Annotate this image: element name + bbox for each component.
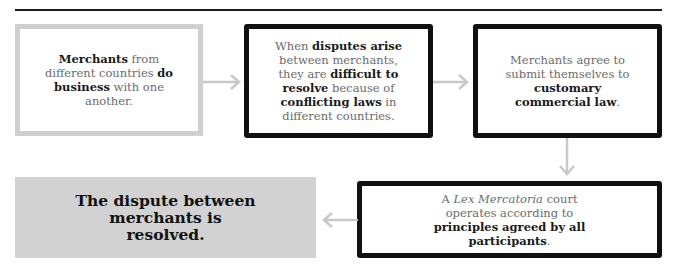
result-box: The dispute between merchants is resolve… — [15, 177, 316, 258]
arrow-right-icon — [203, 72, 243, 92]
step-2-text: When disputes arise between merchants, t… — [265, 39, 412, 123]
step-2-box: When disputes arise between merchants, t… — [244, 24, 433, 138]
step-4-box: A Lex Mercatoria court operates accordin… — [357, 181, 662, 258]
step-4-text: A Lex Mercatoria court operates accordin… — [422, 192, 597, 248]
top-rule — [15, 9, 662, 11]
step-3-box: Merchants agree to submit themselves to … — [473, 24, 662, 138]
step-3-text: Merchants agree to submit themselves to … — [502, 53, 633, 109]
arrow-right-icon — [433, 72, 471, 92]
step-1-box: Merchants from different countries do bu… — [15, 24, 203, 136]
arrow-left-icon — [322, 210, 358, 230]
result-text: The dispute between merchants is resolve… — [75, 192, 256, 243]
arrow-down-icon — [557, 138, 577, 178]
step-1-text: Merchants from different countries do bu… — [42, 52, 176, 108]
